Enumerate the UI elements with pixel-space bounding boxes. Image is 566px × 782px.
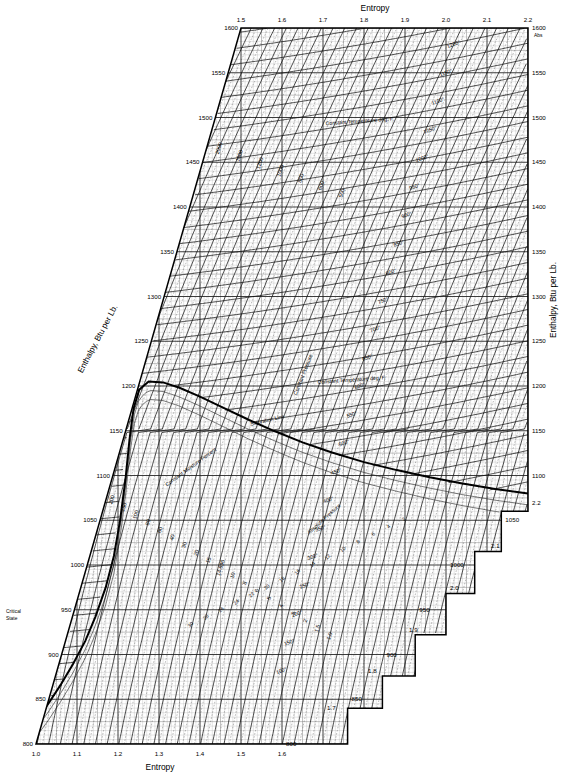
- y-tick-step: 850: [352, 695, 363, 702]
- y-tick-right: 1100: [532, 472, 546, 479]
- x-tick-step: 2.0: [450, 584, 459, 591]
- x-tick-top: 1.9: [401, 16, 410, 23]
- y-tick-left: 1100: [97, 472, 111, 479]
- critical-state-label-line2: State: [6, 616, 18, 621]
- y-tick-left: 1550: [211, 69, 225, 76]
- abs-corner-label: Abs: [534, 33, 543, 38]
- y-tick-step: 1050: [505, 516, 519, 523]
- x-tick-step: 2.2: [532, 499, 541, 506]
- y-tick-left: 1300: [147, 293, 161, 300]
- axis-title-top: Entropy: [361, 3, 391, 13]
- x-tick-bottom: 1.0: [32, 750, 41, 757]
- mollier-chart: 1.51.61.71.81.92.02.12.21.01.11.21.31.41…: [0, 0, 566, 782]
- y-tick-right: 1200: [532, 382, 546, 389]
- x-tick-top: 2.2: [524, 16, 533, 23]
- x-tick-top: 1.8: [360, 16, 369, 23]
- y-tick-left: 900: [48, 651, 59, 658]
- y-tick-left: 1150: [109, 427, 123, 434]
- y-tick-left: 1350: [160, 248, 174, 255]
- y-tick-step: 900: [386, 651, 397, 658]
- y-tick-right: 1600: [532, 24, 546, 31]
- y-tick-right: 1550: [532, 69, 546, 76]
- y-tick-left: 800: [23, 740, 34, 747]
- x-tick-bottom: 1.6: [278, 750, 287, 757]
- y-tick-right: 1400: [532, 203, 546, 210]
- y-tick-step: 950: [419, 606, 430, 613]
- y-tick-left: 1050: [83, 516, 97, 523]
- x-tick-bottom: 1.2: [114, 750, 123, 757]
- critical-state-label-line1: Critical: [6, 609, 21, 614]
- y-tick-left: 1450: [186, 158, 200, 165]
- x-tick-step: 2.1: [491, 542, 500, 549]
- x-tick-top: 2.1: [483, 16, 492, 23]
- y-tick-left: 850: [35, 695, 46, 702]
- x-tick-bottom: 1.5: [237, 750, 246, 757]
- x-tick-bottom: 1.3: [155, 750, 164, 757]
- y-tick-step: 800: [286, 740, 297, 747]
- y-tick-right: 1300: [532, 293, 546, 300]
- y-tick-right: 1250: [532, 337, 546, 344]
- y-tick-left: 1400: [173, 203, 187, 210]
- x-tick-step: 1.7: [327, 704, 336, 711]
- axis-title-right: Enthalpy, Btu per Lb.: [549, 262, 558, 338]
- x-tick-step: 1.8: [368, 667, 377, 674]
- x-tick-bottom: 1.4: [196, 750, 205, 757]
- y-tick-right: 1450: [532, 158, 546, 165]
- x-tick-top: 1.6: [278, 16, 287, 23]
- y-tick-left: 1600: [224, 24, 238, 31]
- axis-title-bottom: Entropy: [146, 762, 176, 772]
- y-tick-left: 1200: [122, 382, 136, 389]
- y-tick-left: 1000: [70, 561, 84, 568]
- y-tick-right: 1500: [532, 114, 546, 121]
- y-tick-left: 950: [61, 606, 72, 613]
- y-tick-left: 1500: [199, 114, 213, 121]
- y-tick-right: 1150: [532, 427, 546, 434]
- y-tick-left: 1250: [135, 337, 149, 344]
- x-tick-step: 1.9: [409, 626, 418, 633]
- x-tick-bottom: 1.1: [73, 750, 82, 757]
- y-tick-right: 1350: [532, 248, 546, 255]
- x-tick-top: 1.7: [319, 16, 328, 23]
- mollier-diagram-page: 1.51.61.71.81.92.02.12.21.01.11.21.31.41…: [0, 0, 566, 782]
- x-tick-top: 1.5: [237, 16, 246, 23]
- x-tick-top: 2.0: [442, 16, 451, 23]
- y-tick-step: 1000: [450, 561, 464, 568]
